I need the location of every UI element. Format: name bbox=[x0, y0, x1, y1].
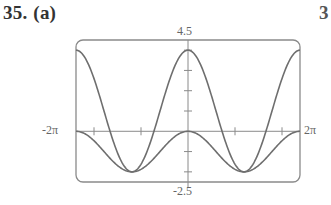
graph bbox=[0, 0, 331, 205]
x-min-label: -2π bbox=[42, 123, 58, 138]
y-min-label: -2.5 bbox=[173, 184, 192, 199]
x-max-label: 2π bbox=[304, 123, 316, 138]
y-max-label: 4.5 bbox=[177, 24, 192, 39]
